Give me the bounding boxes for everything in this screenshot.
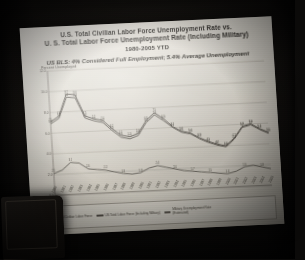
foreground-dark-object: [1, 195, 65, 260]
x-tick-label: 2000: [225, 178, 231, 186]
svg-text:5.3: 5.3: [119, 133, 123, 137]
svg-text:5.4: 5.4: [258, 125, 262, 129]
x-tick-label: 2001: [233, 177, 239, 185]
x-tick-label: 1987: [112, 183, 118, 191]
x-tick-label: 1983: [77, 184, 83, 192]
svg-text:9.3: 9.3: [73, 93, 77, 97]
svg-text:2.4: 2.4: [86, 164, 90, 168]
x-tick-label: 1996: [190, 179, 196, 187]
legend-label: US Total Labor Force (Including Military…: [105, 211, 160, 218]
x-tick-label: 1989: [129, 182, 135, 190]
svg-text:6.9: 6.9: [49, 119, 53, 123]
chart-plot-area: Percent Unemployed 0.02.04.06.08.010.012…: [31, 57, 275, 202]
legend-label: Military Unemployment Rate (Estimated): [173, 206, 227, 216]
svg-text:7.0: 7.0: [92, 116, 96, 120]
svg-text:5.0: 5.0: [267, 129, 271, 133]
x-tick-label: 1988: [121, 182, 127, 190]
x-tick-label: 1985: [95, 184, 101, 192]
svg-text:9.4: 9.4: [64, 93, 68, 97]
x-tick-label: 1980: [51, 186, 57, 194]
legend-color-swatch: [164, 211, 171, 213]
svg-text:2.4: 2.4: [156, 161, 160, 165]
svg-text:4.4: 4.4: [206, 138, 210, 142]
x-tick-label: 1981: [60, 185, 66, 193]
svg-text:7.3: 7.3: [83, 113, 87, 117]
x-tick-label: 1994: [173, 180, 179, 188]
svg-text:12.0: 12.0: [40, 69, 47, 73]
x-tick-label: 1982: [69, 185, 75, 193]
svg-text:6.8: 6.8: [101, 118, 105, 122]
legend-item: US Total Labor Force (Including Military…: [96, 211, 160, 218]
x-tick-label: 1998: [207, 178, 213, 186]
svg-text:10.0: 10.0: [41, 90, 48, 94]
x-tick-label: 2003: [251, 176, 257, 184]
x-tick-label: 1997: [199, 179, 205, 187]
svg-text:6.0: 6.0: [171, 123, 175, 127]
svg-text:6.0: 6.0: [45, 131, 50, 135]
x-tick-label: 2004: [260, 176, 266, 184]
svg-text:7.3: 7.3: [152, 110, 156, 114]
svg-text:4.1: 4.1: [215, 141, 219, 145]
x-tick-label: 1999: [216, 178, 222, 186]
svg-text:6.0: 6.0: [110, 126, 114, 130]
legend-item: Military Unemployment Rate (Estimated): [164, 206, 226, 216]
svg-text:4.0: 4.0: [47, 152, 52, 156]
svg-text:5.7: 5.7: [240, 123, 244, 127]
x-tick-label: 1990: [138, 182, 144, 190]
svg-text:5.5: 5.5: [180, 128, 184, 132]
x-tick-label: 1992: [155, 181, 161, 189]
svg-text:5.3: 5.3: [188, 129, 192, 133]
x-tick-label: 1995: [181, 180, 187, 188]
x-tick-label: 1991: [147, 181, 153, 189]
object-edge-highlight: [5, 199, 58, 250]
x-tick-label: 1993: [164, 180, 170, 188]
x-tick-label: 1984: [86, 184, 92, 192]
svg-text:3.1: 3.1: [68, 158, 72, 162]
svg-text:8.0: 8.0: [44, 111, 49, 115]
x-tick-label: 2005: [268, 175, 274, 183]
x-tick-label: 2002: [242, 177, 248, 185]
x-tick-label: 1986: [103, 183, 109, 191]
svg-text:6.7: 6.7: [162, 116, 166, 120]
svg-text:4.8: 4.8: [197, 134, 201, 138]
legend-color-swatch: [96, 215, 103, 217]
svg-text:5.9: 5.9: [249, 120, 253, 124]
